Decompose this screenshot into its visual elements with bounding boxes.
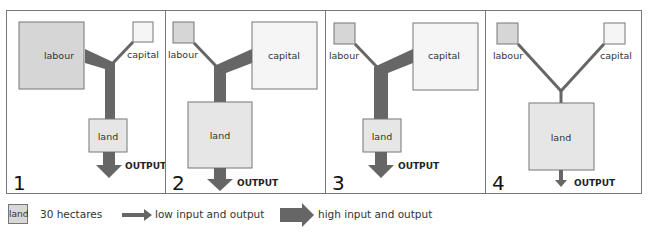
labour-flow [518,44,561,91]
output-arrow [368,152,394,178]
output-label: OUTPUT [125,161,165,171]
output-label: OUTPUT [398,161,440,171]
land-label: land [372,131,393,142]
panel-number: 2 [172,171,185,195]
land-label: land [98,131,119,142]
labour-box [173,22,194,43]
panel-number: 4 [492,171,505,195]
capital-flow [214,49,252,102]
panel-3: labour capital land OUTPUT 3 [325,11,485,193]
output-arrow [96,152,122,178]
capital-label: capital [600,50,632,61]
labour-label: labour [168,49,198,60]
capital-label: capital [428,50,460,61]
legend: land 30 hectares low input and output hi… [8,203,648,227]
diagram-frame: labour capital land OUTPUT 1 labour capi… [6,10,642,194]
panel-4-diagram: labour capital land OUTPUT 4 [486,11,644,195]
panel-1: labour capital land OUTPUT 1 [7,11,165,193]
output-arrow [555,170,567,187]
capital-label: capital [127,49,159,60]
capital-box [133,22,153,42]
capital-box [604,23,625,44]
labour-label: labour [329,50,359,61]
capital-flow [561,44,604,91]
labour-label: labour [493,50,523,61]
labour-label: labour [44,50,74,61]
capital-flow [374,49,413,119]
panel-4: labour capital land OUTPUT 4 [485,11,643,193]
panel-1-diagram: labour capital land OUTPUT 1 [7,11,165,195]
labour-box [334,23,355,44]
land-label: land [551,132,572,143]
panel-2: labour capital land OUTPUT 2 [165,11,325,193]
output-label: OUTPUT [237,178,279,188]
capital-label: capital [268,50,300,61]
legend-low: low input and output [155,208,264,220]
output-label: OUTPUT [574,178,616,188]
labour-box [497,23,518,44]
panel-3-diagram: labour capital land OUTPUT 3 [326,11,486,195]
low-flow-arrow-icon [122,208,152,222]
panel-number: 3 [332,171,345,195]
output-arrow [207,168,233,191]
labour-flow [85,49,115,119]
legend-high: high input and output [318,208,432,220]
land-label: land [210,130,231,141]
high-flow-arrow-icon [280,203,314,227]
legend-land-box: land [8,204,28,224]
panel-2-diagram: labour capital land OUTPUT 2 [166,11,326,195]
legend-land-desc: 30 hectares [40,208,102,220]
panel-number: 1 [13,171,26,195]
